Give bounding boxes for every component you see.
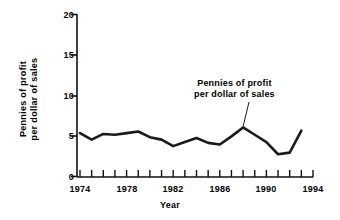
x-axis	[77, 170, 313, 177]
annotation-leader-line	[243, 102, 249, 126]
chart-container: Pennies of profit per dollar of sales 20…	[0, 0, 340, 220]
y-axis	[71, 14, 77, 177]
chart-svg	[0, 0, 340, 220]
data-series-line	[80, 127, 301, 154]
x-axis-ticks	[80, 170, 313, 177]
